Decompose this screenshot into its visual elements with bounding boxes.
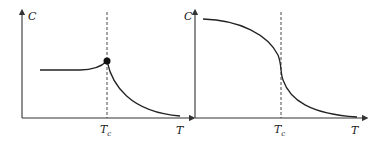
right-panel: C Tc T [184,10,365,138]
left-curve-below [40,61,107,70]
left-peak-dot [104,58,111,65]
left-x-label: T [176,124,185,137]
right-curve [203,19,357,117]
left-panel: C Tc T [22,10,192,138]
right-x-label: T [351,124,360,137]
diagram: C Tc T C Tc T [0,0,385,145]
left-curve-above [107,61,180,116]
left-tc-label: Tc [100,123,111,138]
right-tc-label: Tc [274,123,285,138]
right-y-label: C [184,10,193,23]
left-y-label: C [28,10,37,23]
